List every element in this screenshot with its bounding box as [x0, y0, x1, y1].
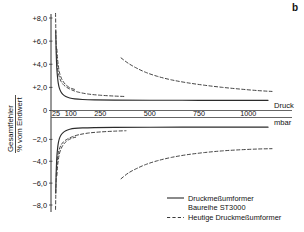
y-tick-3: +2,0 — [32, 83, 47, 92]
y-tick-7: −6,0 — [32, 179, 47, 188]
curve-s3-lower — [121, 149, 272, 179]
x-axis-title-unit: mbar — [274, 118, 292, 127]
chart-container: b +8,0+6,0+4,0+2,00−2,0−4,0−6,0−8,0 2510… — [0, 0, 304, 232]
y-tick-6: −4,0 — [32, 157, 47, 166]
y-tick-1: +6,0 — [32, 37, 47, 46]
y-tick-0: +8,0 — [32, 14, 47, 23]
curve-s3-upper — [121, 58, 272, 92]
curve-s1-lower — [56, 131, 126, 210]
y-tick-8: −8,0 — [32, 201, 47, 210]
x-axis-title-name: Druck — [274, 101, 294, 110]
y-tick-5: −2,0 — [32, 135, 47, 144]
curve-s1-upper — [56, 13, 126, 96]
curve-s2-upper — [57, 49, 76, 89]
x-tick-4: 750 — [193, 109, 205, 118]
y-axis-title-line1: Gesamtfehler — [6, 105, 15, 152]
x-tick-5: 1000 — [240, 109, 256, 118]
x-tick-2: 250 — [94, 109, 106, 118]
error-vs-pressure-chart: +8,0+6,0+4,0+2,00−2,0−4,0−6,0−8,0 251002… — [0, 0, 304, 232]
y-axis-tick-labels: +8,0+6,0+4,0+2,00−2,0−4,0−6,0−8,0 — [32, 14, 52, 210]
x-tick-1: 100 — [65, 109, 77, 118]
y-tick-2: +4,0 — [32, 60, 47, 69]
legend-label-st3000-line2: Baureihe ST3000 — [188, 203, 246, 212]
x-tick-3: 500 — [144, 109, 156, 118]
curve-s0-upper — [56, 31, 268, 101]
curve-s2-lower — [57, 137, 76, 175]
legend-label-heutige: Heutige Druckmeßumformer — [188, 213, 282, 222]
panel-label: b — [292, 2, 298, 13]
y-axis-title-line2: % vom Endwert — [15, 97, 24, 152]
x-tick-0: 25 — [52, 109, 60, 118]
x-axis-title: Druck mbar — [274, 101, 294, 126]
y-tick-4: 0 — [43, 106, 47, 115]
y-axis-title: Gesamtfehler % vom Endwert — [6, 95, 24, 153]
legend-label-st3000-line1: Druckmeßumformer — [188, 194, 254, 203]
chart-legend: Druckmeßumformer Baureihe ST3000 Heutige… — [167, 194, 282, 223]
